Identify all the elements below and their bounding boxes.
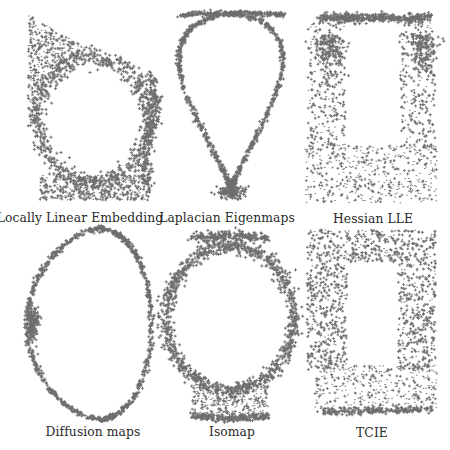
caption-tcie: TCIE (356, 426, 388, 440)
caption-isomap: Isomap (209, 425, 255, 439)
caption-laplacian: Laplacian Eigenmaps (159, 211, 295, 225)
caption-diffusion: Diffusion maps (46, 425, 141, 439)
caption-lle: Locally Linear Embedding (0, 211, 163, 225)
caption-hessian: Hessian LLE (333, 212, 413, 226)
